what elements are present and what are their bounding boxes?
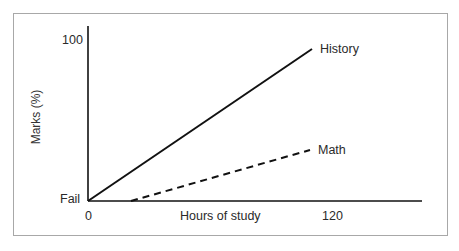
y-tick-100: 100 [62, 33, 83, 47]
series-label-history: History [320, 42, 359, 56]
series-label-math: Math [318, 143, 346, 157]
history-line [88, 49, 312, 201]
y-tick-fail: Fail [60, 192, 80, 206]
math-line [131, 150, 310, 201]
x-tick-0: 0 [85, 209, 92, 223]
y-axis-title: Marks (%) [29, 82, 43, 152]
x-tick-120: 120 [322, 209, 343, 223]
x-axis-title: Hours of study [180, 209, 261, 223]
